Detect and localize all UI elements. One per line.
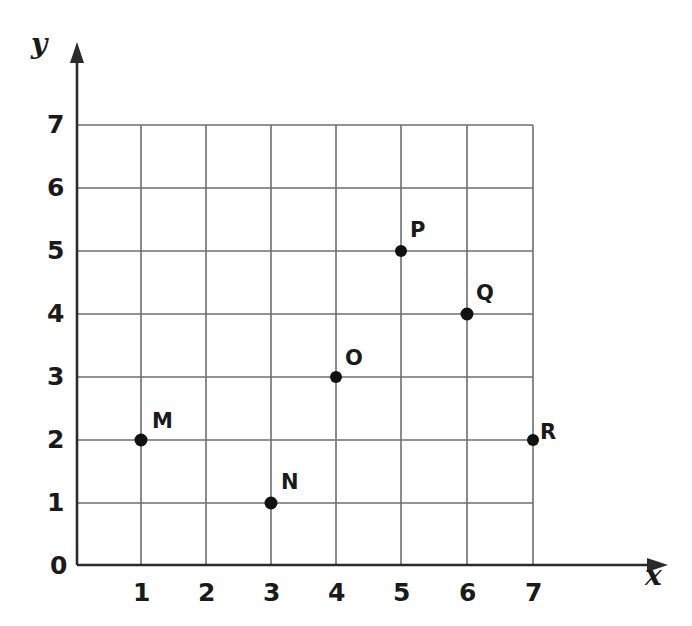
x-axis-label: x xyxy=(645,562,662,590)
x-tick-label-2: 2 xyxy=(198,580,215,605)
vertical-gridlines xyxy=(141,125,533,565)
x-tick-label-4: 4 xyxy=(328,580,345,605)
point-label-r: R xyxy=(540,422,556,443)
y-tick-label-6: 6 xyxy=(47,175,64,200)
point-label-p: P xyxy=(410,220,425,241)
point-label-m: M xyxy=(152,411,173,432)
point-m xyxy=(135,434,148,447)
x-tick-label-6: 6 xyxy=(459,580,476,605)
point-label-q: Q xyxy=(476,283,494,304)
y-tick-label-5: 5 xyxy=(47,238,64,263)
point-o xyxy=(330,371,342,383)
point-p xyxy=(395,245,407,257)
point-label-o: O xyxy=(345,348,363,369)
y-tick-label-2: 2 xyxy=(47,427,64,452)
x-tick-label-7: 7 xyxy=(525,580,542,605)
point-label-n: N xyxy=(281,472,299,493)
y-axis-label: y xyxy=(31,30,47,58)
y-tick-label-7: 7 xyxy=(47,112,64,137)
y-tick-label-1: 1 xyxy=(47,490,64,515)
y-tick-label-4: 4 xyxy=(47,301,64,326)
coordinate-grid-svg xyxy=(0,0,692,626)
point-r xyxy=(527,434,539,446)
coordinate-plane-figure: y x 0 1 2 3 4 5 6 7 7 6 5 4 3 2 1 M N O … xyxy=(0,0,692,626)
x-tick-label-1: 1 xyxy=(133,580,150,605)
y-axis-arrowhead xyxy=(70,42,84,63)
point-q xyxy=(461,308,474,321)
y-tick-label-3: 3 xyxy=(47,364,64,389)
x-tick-label-3: 3 xyxy=(263,580,280,605)
origin-tick-label: 0 xyxy=(50,553,67,578)
point-n xyxy=(265,497,278,510)
x-tick-label-5: 5 xyxy=(393,580,410,605)
